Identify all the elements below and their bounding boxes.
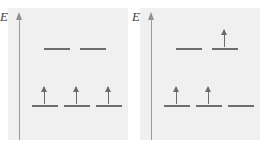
level-line bbox=[196, 105, 222, 107]
electron-spin-up-arrow-icon bbox=[108, 87, 109, 104]
level-line bbox=[176, 48, 202, 50]
level-line bbox=[164, 105, 190, 107]
level-line bbox=[96, 105, 122, 107]
level-line bbox=[80, 48, 106, 50]
level-line bbox=[32, 105, 58, 107]
axis-label-energy-right: E bbox=[132, 10, 140, 23]
level-line bbox=[44, 48, 70, 50]
electron-spin-up-arrow-icon bbox=[76, 87, 77, 104]
electron-spin-up-arrow-icon bbox=[224, 30, 225, 47]
electron-spin-up-arrow-icon bbox=[176, 87, 177, 104]
energy-axis-left bbox=[19, 18, 20, 140]
level-line bbox=[64, 105, 90, 107]
axis-label-energy-left: E bbox=[0, 10, 8, 23]
level-line bbox=[212, 48, 238, 50]
energy-level-figure: E E bbox=[0, 0, 266, 146]
electron-spin-up-arrow-icon bbox=[44, 87, 45, 104]
energy-axis-right bbox=[151, 18, 152, 140]
panel-left: E bbox=[8, 8, 128, 140]
level-line bbox=[228, 105, 254, 107]
electron-spin-up-arrow-icon bbox=[208, 87, 209, 104]
panel-right: E bbox=[140, 8, 260, 140]
